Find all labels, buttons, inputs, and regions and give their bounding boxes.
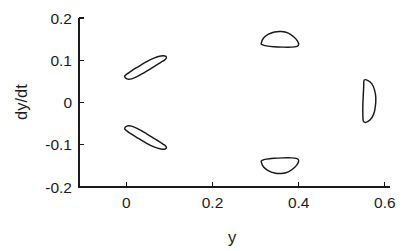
y-tick-labels: -0.2-0.100.10.2	[45, 10, 72, 196]
axis-ticks	[79, 18, 385, 187]
x-tick-label-3: 0.6	[374, 194, 396, 211]
x-tick-label-2: 0.4	[288, 194, 310, 211]
orbit-upper-left	[125, 56, 167, 79]
axis-spines	[79, 18, 390, 187]
y-tick-label-1: -0.1	[45, 136, 72, 153]
y-tick-label-3: 0.1	[50, 52, 72, 69]
axis-frame	[79, 18, 390, 187]
x-axis-title: y	[228, 228, 237, 246]
orbit-right-crescent	[363, 80, 376, 123]
x-tick-label-0: 0	[122, 194, 131, 211]
x-tick-label-1: 0.2	[202, 194, 224, 211]
orbit-curves	[125, 31, 376, 173]
y-tick-label-4: 0.2	[50, 10, 72, 27]
y-tick-label-2: 0	[63, 94, 72, 111]
phase-portrait-chart: 00.20.40.6 -0.2-0.100.10.2 y dy/dt	[0, 0, 411, 251]
orbit-upper-middle	[261, 31, 299, 47]
y-axis-title: dy/dt	[12, 84, 30, 120]
orbit-lower-middle	[261, 158, 299, 174]
orbit-lower-left	[125, 126, 167, 149]
y-tick-label-0: -0.2	[45, 179, 72, 196]
figure-container: 00.20.40.6 -0.2-0.100.10.2 y dy/dt	[0, 0, 411, 251]
x-tick-labels: 00.20.40.6	[122, 194, 396, 211]
